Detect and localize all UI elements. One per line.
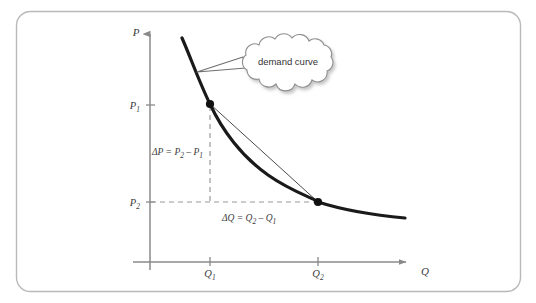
curve-point-1: [206, 100, 214, 108]
price-axis-label: P: [132, 26, 140, 38]
demand-curve-svg: P Q P1 P2 Q1 Q2 ΔP = P2 – P1 ΔQ = Q2 – Q…: [0, 0, 536, 303]
curve-point-2: [314, 198, 322, 206]
demand-curve-figure: P Q P1 P2 Q1 Q2 ΔP = P2 – P1 ΔQ = Q2 – Q…: [0, 0, 536, 303]
quantity-axis-label: Q: [421, 265, 429, 277]
callout-text: demand curve: [258, 56, 318, 67]
